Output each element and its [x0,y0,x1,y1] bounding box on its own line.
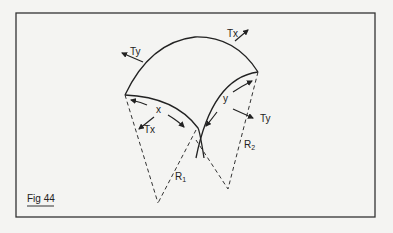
r2-left-dashed [196,140,228,189]
label-ty-top: Ty [130,46,141,57]
label-r1: R1 [175,171,186,183]
label-y: y [223,93,228,104]
y-span-up-arrow-icon [233,81,252,92]
figure-frame [16,13,375,217]
r1-right-dashed [158,130,196,203]
top-edge-arc [125,37,258,95]
label-tx-top: Tx [227,28,238,39]
figure-caption: Fig 44 [27,193,55,204]
label-x: x [156,104,161,115]
ty-right-arrow-icon [233,109,253,118]
label-r2: R2 [244,139,255,151]
r1-left-dashed [125,95,158,203]
label-tx-left: Tx [144,124,155,135]
lower-left-arc [125,95,204,158]
r2-right-dashed [228,72,258,189]
fig-44-diagram: Ty Tx x Tx y Ty R1 R2 Fig 44 [0,0,393,233]
x-span-left-arrow-icon [131,100,147,105]
label-ty-right: Ty [260,113,271,124]
